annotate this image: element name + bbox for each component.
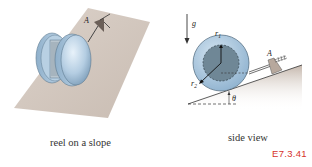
gravity-label: g: [192, 19, 196, 28]
r1-label: r1: [215, 29, 221, 39]
caption-side-view: side view: [228, 132, 268, 143]
anchor-label: A: [83, 16, 89, 25]
figure-id: E7.3.41: [272, 148, 307, 159]
reel-front-flange: [61, 35, 91, 85]
reel-on-slope-panel: A reel on a slope: [0, 0, 156, 167]
side-view-panel: g r1 r2 A θ: [156, 0, 312, 167]
caption-reel-on-slope: reel on a slope: [50, 137, 111, 148]
anchor-label: A: [266, 49, 272, 58]
r2-label: r2: [191, 79, 197, 89]
theta-label: θ: [232, 94, 236, 103]
